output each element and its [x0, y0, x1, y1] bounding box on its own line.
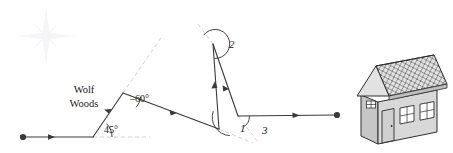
angle-arcs — [107, 29, 250, 137]
dashed-ray-45-extension — [123, 35, 163, 93]
segment-corner-east — [238, 115, 337, 116]
arrowhead-up-leg — [211, 81, 217, 88]
house-destination — [357, 55, 447, 144]
arrowhead-east-2 — [292, 113, 300, 118]
dashed-ray-lower-extension — [219, 129, 253, 143]
angle-label-2: 2 — [229, 38, 235, 50]
dashed-ray-apex — [198, 24, 213, 44]
navigation-diagram: Wolf Woods –60° 45° 2 1 3 — [0, 0, 453, 153]
angle-label-45: 45° — [104, 124, 118, 135]
arrowhead-minus60 — [169, 110, 177, 115]
place-label-line2: Woods — [70, 98, 99, 109]
house-window-left — [400, 105, 414, 124]
figure-root: Wolf Woods –60° 45° 2 1 3 — [0, 0, 453, 153]
place-label-line1: Wolf — [74, 84, 95, 95]
start-point-dot — [20, 134, 26, 140]
path-segments — [23, 44, 337, 137]
compass-rose — [17, 7, 75, 65]
house-door — [382, 109, 394, 144]
house-gable-window — [367, 101, 376, 108]
angle-label-1: 1 — [240, 122, 246, 134]
angle-label-minus60: –60° — [129, 93, 149, 104]
angle-label-3: 3 — [261, 124, 268, 136]
house-window-right — [420, 102, 434, 121]
end-point-dot — [334, 112, 340, 118]
arrowhead-east-1 — [48, 134, 55, 139]
